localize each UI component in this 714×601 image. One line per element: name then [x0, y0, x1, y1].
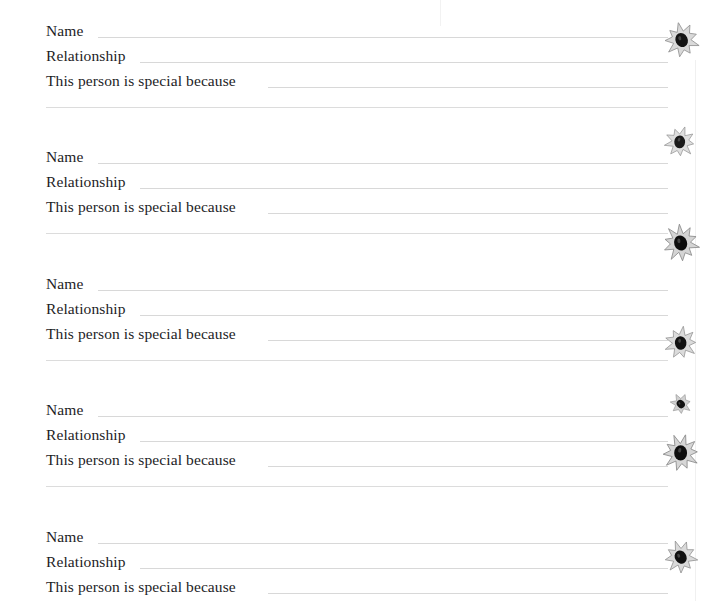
write-in-line-relationship[interactable]	[140, 568, 668, 569]
write-in-line-name[interactable]	[98, 290, 668, 291]
scan-artifact-line-right	[695, 60, 696, 601]
write-in-line-special_because[interactable]	[268, 213, 668, 214]
field-row-special_because[interactable]: This person is special because	[46, 194, 668, 216]
write-in-line-relationship[interactable]	[140, 62, 668, 63]
field-label-name: Name	[46, 22, 83, 40]
field-label-special_because: This person is special because	[46, 451, 236, 469]
field-row-relationship[interactable]: Relationship	[46, 296, 668, 318]
field-row-special_because[interactable]: This person is special because	[46, 321, 668, 343]
field-row-special_because[interactable]: This person is special because	[46, 574, 668, 596]
entry-divider-line	[46, 233, 668, 234]
field-row-special_because[interactable]: This person is special because	[46, 68, 668, 90]
write-in-line-relationship[interactable]	[140, 441, 668, 442]
field-label-relationship: Relationship	[46, 47, 126, 65]
field-label-special_because: This person is special because	[46, 578, 236, 596]
write-in-line-special_because[interactable]	[268, 466, 668, 467]
field-row-name[interactable]: Name	[46, 524, 668, 546]
write-in-line-name[interactable]	[98, 543, 668, 544]
field-row-name[interactable]: Name	[46, 271, 668, 293]
entry-divider-line	[46, 486, 668, 487]
write-in-line-relationship[interactable]	[140, 315, 668, 316]
field-row-relationship[interactable]: Relationship	[46, 422, 668, 444]
write-in-line-special_because[interactable]	[268, 593, 668, 594]
field-row-name[interactable]: Name	[46, 144, 668, 166]
entry-divider-line	[46, 360, 668, 361]
write-in-line-special_because[interactable]	[268, 87, 668, 88]
field-label-special_because: This person is special because	[46, 72, 236, 90]
field-label-relationship: Relationship	[46, 300, 126, 318]
flower-ornament-5	[666, 389, 696, 419]
field-row-relationship[interactable]: Relationship	[46, 43, 668, 65]
field-row-name[interactable]: Name	[46, 397, 668, 419]
write-in-line-name[interactable]	[98, 37, 668, 38]
write-in-line-relationship[interactable]	[140, 188, 668, 189]
field-label-name: Name	[46, 148, 83, 166]
field-label-relationship: Relationship	[46, 173, 126, 191]
field-label-name: Name	[46, 528, 83, 546]
field-label-special_because: This person is special because	[46, 325, 236, 343]
field-row-special_because[interactable]: This person is special because	[46, 447, 668, 469]
write-in-line-special_because[interactable]	[268, 340, 668, 341]
field-label-relationship: Relationship	[46, 426, 126, 444]
field-label-name: Name	[46, 401, 83, 419]
field-row-relationship[interactable]: Relationship	[46, 169, 668, 191]
field-label-relationship: Relationship	[46, 553, 126, 571]
field-row-name[interactable]: Name	[46, 18, 668, 40]
entry-divider-line	[46, 107, 668, 108]
write-in-line-name[interactable]	[98, 163, 668, 164]
write-in-line-name[interactable]	[98, 416, 668, 417]
field-label-name: Name	[46, 275, 83, 293]
field-row-relationship[interactable]: Relationship	[46, 549, 668, 571]
field-label-special_because: This person is special because	[46, 198, 236, 216]
memory-book-page: NameRelationshipThis person is special b…	[0, 0, 714, 601]
